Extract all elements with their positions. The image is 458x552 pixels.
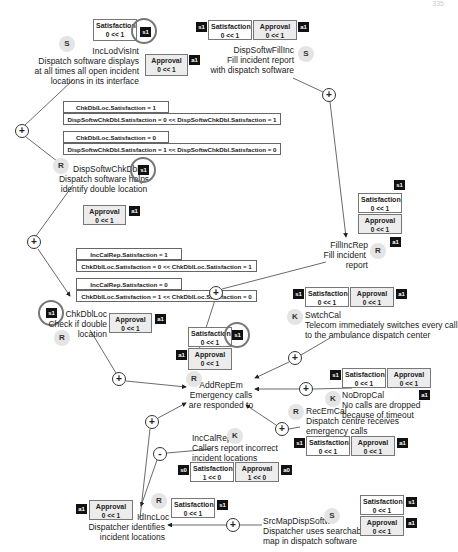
goal-type-badge: K <box>287 309 303 325</box>
and-operator[interactable]: + <box>275 422 289 436</box>
attr-label: Approval <box>390 370 428 379</box>
incLodVisInt-desc-1: Dispatch software displays <box>30 56 139 66</box>
fillIncRep-approval-box: Approval 0 << 1 <box>358 214 402 234</box>
attr-value: 0 << 1 <box>309 447 347 456</box>
attr-label: Approval <box>238 464 276 473</box>
attr-label: Approval <box>363 518 401 527</box>
goal-type-badge: K <box>227 428 243 444</box>
attr-label: Approval <box>256 22 294 31</box>
chkDblLoc-name[interactable]: ChkDblLoc <box>60 309 107 319</box>
attr-value: 0 << 1 <box>256 31 294 40</box>
srcMapDispSoftw-desc-1: Dispatcher uses searchable <box>263 526 368 536</box>
s1-tag: s1 <box>293 289 304 299</box>
s1-tag: s1 <box>196 22 207 32</box>
condition-rule: DispSoftwChkDbl.Satisfaction = 1 << Disp… <box>63 143 281 155</box>
attr-label: Approval <box>191 350 229 359</box>
minus-operator[interactable]: - <box>153 447 167 461</box>
attr-label: Approval <box>112 315 149 324</box>
attr-label: Approval <box>354 438 392 447</box>
attr-value: 0 << 1 <box>96 30 134 39</box>
goal-type-badge: R <box>53 158 69 174</box>
s1-tag: s1 <box>330 370 341 380</box>
and-operator[interactable]: + <box>209 286 223 300</box>
and-operator[interactable]: + <box>299 382 313 396</box>
a1-tag: a1 <box>129 206 140 216</box>
attr-label: Satisfaction <box>96 21 134 30</box>
highlight-ring <box>130 157 156 183</box>
goal-type-badge: R <box>288 404 304 420</box>
idIncLoc-name[interactable]: IdIncLoc <box>137 512 169 522</box>
a1-tag: a1 <box>406 518 417 528</box>
a1-tag: a1 <box>298 22 309 32</box>
and-operator[interactable]: + <box>288 351 302 365</box>
dispSoftwFillInc-name[interactable]: DispSoftwFillInc <box>190 45 294 55</box>
and-operator[interactable]: + <box>145 415 159 429</box>
condition-header: ChkDblLoc.Satisfaction = 0 <box>63 131 169 143</box>
attr-value: 0 << 1 <box>191 359 229 368</box>
chkDblLoc-desc-2: location <box>60 329 107 339</box>
goal-type-badge: R <box>370 243 386 259</box>
swtchCal-name[interactable]: SwtchCal <box>305 310 341 320</box>
idIncLoc-approval-box: Approval 0 << 1 <box>89 500 133 520</box>
incLodVisInt-name[interactable]: IncLodVisInt <box>40 46 139 56</box>
incLodVisInt-desc-2: at all times all open incident <box>30 66 139 76</box>
idIncLoc-satisfaction-box: Satisfaction 0 << 1 <box>171 498 215 518</box>
recEmCal-desc-1: Dispatch centre receives <box>306 416 399 426</box>
s1-tag: s1 <box>294 438 305 448</box>
attr-value: 0 << 1 <box>86 216 123 225</box>
attr-label: Approval <box>92 502 130 511</box>
attr-value: 0 << 1 <box>361 204 399 213</box>
srcMapDispSoftw-name[interactable]: SrcMapDispSoftw <box>263 516 331 526</box>
goal-type-badge: S <box>298 46 314 62</box>
attr-label: Satisfaction <box>211 22 249 31</box>
attr-value: 0 << 1 <box>390 379 428 388</box>
s1-tag: s1 <box>406 497 417 507</box>
and-operator[interactable]: + <box>15 124 29 138</box>
attr-value: 0 << 1 <box>353 298 391 307</box>
attr-label: Approval <box>148 56 185 65</box>
goal-type-badge: K <box>325 391 341 407</box>
attr-value: 0 << 1 <box>363 527 401 536</box>
attr-value: 0 << 1 <box>112 324 149 333</box>
condition-rule: ChkDblLoc.Satisfaction = 1 << ChkDblLoc.… <box>76 290 257 302</box>
condition-rule: ChkDblLoc.Satisfaction = 0 << ChkDblLoc.… <box>76 260 257 272</box>
fillIncRep-desc-1: Fill incident <box>300 250 366 260</box>
attr-value: 0 << 1 <box>308 298 346 307</box>
highlight-ring <box>131 18 157 44</box>
goal-type-badge: S <box>324 508 340 524</box>
s0-tag: s0 <box>178 465 189 475</box>
fillIncRep-satisfaction-box: Satisfaction 0 << 1 <box>358 193 402 213</box>
idIncLoc-desc-2: incident locations <box>70 532 165 542</box>
and-operator[interactable]: + <box>27 235 41 249</box>
a1-tag: a1 <box>397 438 408 448</box>
attr-value: 0 << 1 <box>345 379 383 388</box>
noDropCal-name[interactable]: NoDropCal <box>342 390 384 400</box>
recEmCal-satisfaction-box: Satisfaction 0 << 1 <box>306 436 350 456</box>
condition-header: ChkDblLoc.Satisfaction = 1 <box>63 101 169 113</box>
addRepEm-name[interactable]: AddRepEm <box>185 380 257 390</box>
incLodVisInt-desc-3: locations in its interface <box>30 76 139 86</box>
attr-value: 0 << 1 <box>354 447 392 456</box>
srcMapDispSoftw-satisfaction-box: Satisfaction 0 << 1 <box>360 495 404 515</box>
fillIncRep-desc-2: report <box>300 260 368 270</box>
incCalRep-name[interactable]: IncCalRep <box>192 433 232 443</box>
s1-tag: s1 <box>394 180 405 190</box>
attr-label: Satisfaction <box>363 497 401 506</box>
attr-label: Satisfaction <box>308 289 346 298</box>
attr-label: Approval <box>86 207 123 216</box>
and-operator[interactable]: + <box>322 88 336 102</box>
addRepEm-approval-box: Approval 0 << 1 <box>188 348 232 370</box>
and-operator[interactable]: + <box>226 518 240 532</box>
srcMapDispSoftw-desc-2: map in dispatch software <box>263 536 357 546</box>
and-operator[interactable]: + <box>112 372 126 386</box>
attr-value: 1 << 0 <box>193 473 231 482</box>
fillIncRep-name[interactable]: FillIncRep <box>310 240 368 250</box>
incCalRep-desc-1: Callers report incorrect <box>192 443 278 453</box>
s1-tag: s1 <box>217 500 228 510</box>
recEmCal-name[interactable]: RecEmCal <box>306 406 347 416</box>
dispSoftwChkDbl-approval-box: Approval 0 << 1 <box>83 205 126 225</box>
recEmCal-approval-box: Approval 0 << 1 <box>351 436 395 456</box>
swtchCal-desc-2: to the ambulance dispatch center <box>305 330 430 340</box>
condition-rule: DispSoftwChkDbl.Satisfaction = 0 << Disp… <box>63 113 281 125</box>
incCalRep-satisfaction-box: Satisfaction 1 << 0 <box>190 462 234 482</box>
